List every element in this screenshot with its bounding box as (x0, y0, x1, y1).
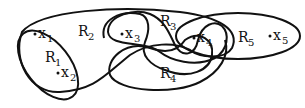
vertex-x5: x 5 (269, 27, 289, 46)
edge-subscript: 4 (170, 73, 176, 84)
diagram-canvas: x 1 x 2 x 3 x 4 x 5 R 1 R 2 (0, 0, 305, 108)
vertex-label: x (38, 25, 46, 41)
vertex-subscript: 2 (70, 72, 76, 83)
vertex-label: x (273, 27, 281, 43)
hypergraph-diagram: x 1 x 2 x 3 x 4 x 5 R 1 R 2 (0, 0, 305, 108)
hyperedge-label-r1: R 1 (45, 49, 61, 68)
vertex-label: x (61, 64, 69, 80)
vertex-subscript: 3 (134, 33, 140, 44)
vertex-dot (34, 33, 37, 36)
vertex-dot (57, 72, 60, 75)
vertex-x4: x 4 (193, 29, 213, 48)
edge-subscript: 5 (248, 37, 254, 48)
hyperedge-label-r4: R 4 (160, 65, 176, 84)
hyperedge-label-r5: R 5 (238, 29, 254, 48)
vertex-subscript: 5 (282, 35, 288, 46)
edge-subscript: 1 (55, 57, 61, 68)
vertex-subscript: 4 (206, 37, 212, 48)
vertex-dot (269, 35, 272, 38)
vertex-label: x (197, 29, 205, 45)
hyperedge-label-r2: R 2 (78, 23, 94, 42)
vertex-subscript: 1 (47, 33, 53, 44)
vertex-x1: x 1 (34, 25, 54, 44)
vertex-dot (121, 33, 124, 36)
hyperedge-label-r3: R 3 (160, 13, 176, 32)
edge-subscript: 3 (170, 21, 176, 32)
edge-subscript: 2 (88, 31, 94, 42)
vertex-x3: x 3 (121, 25, 141, 44)
vertex-dot (193, 37, 196, 40)
vertex-label: x (125, 25, 133, 41)
